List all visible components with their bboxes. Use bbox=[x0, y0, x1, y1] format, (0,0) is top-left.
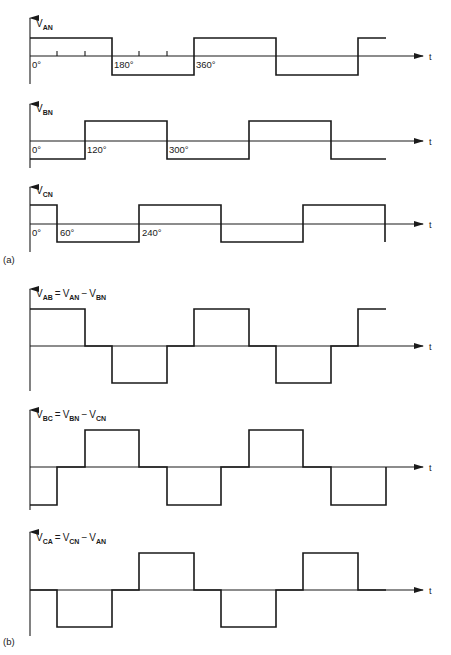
panel-vcn: VCN 0° 60° 240° t bbox=[30, 185, 432, 252]
label-vab: VAB=VAN−VBN bbox=[36, 288, 106, 301]
angle-label-60: 60° bbox=[60, 227, 75, 238]
waveform-vbn bbox=[30, 121, 386, 159]
panel-van: VAN 0° 180° 360° t bbox=[30, 18, 432, 84]
panel-vca: VCA=VCN−VAN t bbox=[30, 532, 432, 636]
panel-vab: VAB=VAN−VBN t bbox=[30, 288, 432, 391]
angle-label-0: 0° bbox=[32, 144, 41, 155]
angle-label-300: 300° bbox=[169, 144, 189, 155]
angle-label-0: 0° bbox=[32, 59, 41, 70]
label-vcn: VCN bbox=[36, 185, 53, 198]
time-label: t bbox=[429, 342, 432, 352]
part-label-b: (b) bbox=[3, 636, 15, 647]
time-label: t bbox=[429, 220, 432, 230]
panel-vbn: VBN 0° 120° 300° t bbox=[30, 103, 432, 168]
label-van: VAN bbox=[36, 18, 53, 31]
angle-label-240: 240° bbox=[142, 227, 162, 238]
time-label: t bbox=[429, 463, 432, 473]
part-label-a: (a) bbox=[3, 254, 15, 265]
label-vbc: VBC=VBN−VCN bbox=[36, 409, 106, 422]
angle-label-0: 0° bbox=[32, 227, 41, 238]
time-label: t bbox=[429, 586, 432, 596]
waveform-diagram: VAN 0° 180° 360° t VBN 0° 120° 300° t VC… bbox=[0, 0, 451, 655]
angle-label-120: 120° bbox=[87, 144, 107, 155]
panel-vbc: VBC=VBN−VCN t bbox=[30, 409, 432, 510]
time-label: t bbox=[429, 137, 432, 147]
angle-label-360: 360° bbox=[196, 59, 216, 70]
label-vca: VCA=VCN−VAN bbox=[36, 532, 106, 545]
angle-label-180: 180° bbox=[114, 59, 134, 70]
time-label: t bbox=[429, 52, 432, 62]
label-vbn: VBN bbox=[36, 103, 53, 116]
